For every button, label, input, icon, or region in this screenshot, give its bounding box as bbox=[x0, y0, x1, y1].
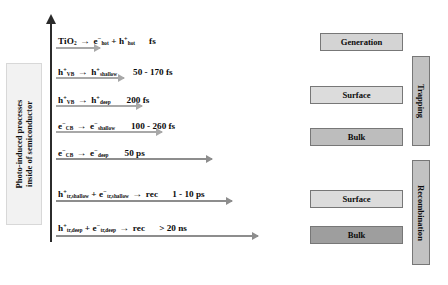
process-arrow-shaft bbox=[56, 77, 124, 78]
side-caption-panel: Photo-induced processes inside of semico… bbox=[6, 63, 42, 225]
process-arrow-electron-deep bbox=[56, 155, 212, 163]
process-arrow-shaft bbox=[56, 158, 212, 159]
timescale-generation: fs bbox=[149, 36, 156, 46]
block-trapping-surface: Surface bbox=[310, 86, 403, 104]
process-arrow-generation bbox=[56, 44, 100, 52]
process-arrow-hole-deep bbox=[56, 102, 142, 110]
side-caption-line-1: Photo-induced processes bbox=[14, 100, 24, 189]
process-arrow-head bbox=[94, 44, 101, 52]
bar-trapping-label: Trapping bbox=[416, 84, 426, 118]
process-arrow-head bbox=[156, 128, 163, 136]
bar-recombination-label: Recombination bbox=[416, 185, 426, 241]
process-arrow-recombination-shallow bbox=[56, 197, 232, 205]
side-caption-text: Photo-induced processes inside of semico… bbox=[14, 100, 34, 189]
block-generation: Generation bbox=[320, 33, 403, 51]
process-arrow-head bbox=[252, 232, 259, 240]
process-arrow-head bbox=[226, 197, 233, 205]
block-recombination-surface: Surface bbox=[310, 190, 403, 208]
process-arrow-head bbox=[136, 102, 143, 110]
process-arrow-head bbox=[118, 74, 125, 82]
process-arrow-electron-shallow bbox=[56, 128, 162, 136]
time-axis bbox=[48, 14, 54, 242]
bar-recombination: Recombination bbox=[412, 160, 430, 265]
process-arrow-shaft bbox=[56, 105, 142, 106]
bar-trapping: Trapping bbox=[412, 56, 430, 146]
eq1-product-e-sub: hot bbox=[101, 40, 108, 46]
side-caption-line-2: inside of semiconductor bbox=[24, 100, 34, 189]
process-arrow-shaft bbox=[56, 131, 162, 132]
figure-canvas: Photo-induced processes inside of semico… bbox=[0, 0, 448, 285]
process-arrow-recombination-deep bbox=[56, 232, 258, 240]
process-arrow-shaft bbox=[56, 200, 232, 201]
block-recombination-bulk: Bulk bbox=[310, 226, 403, 244]
eq1-product-h-sub: hot bbox=[128, 40, 135, 46]
time-axis-line bbox=[50, 22, 52, 242]
process-arrow-hole-shallow bbox=[56, 74, 124, 82]
process-arrow-shaft bbox=[56, 235, 258, 236]
eq1-plus: + bbox=[111, 36, 116, 46]
timescale-hole-shallow: 50 - 170 fs bbox=[133, 67, 173, 77]
block-trapping-bulk: Bulk bbox=[310, 128, 403, 146]
process-arrow-head bbox=[206, 155, 213, 163]
